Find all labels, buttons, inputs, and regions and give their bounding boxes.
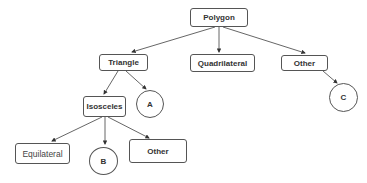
node-polygon: Polygon	[190, 8, 248, 27]
node-b-circle: B	[89, 147, 118, 175]
node-isosceles: Isosceles	[83, 96, 126, 117]
node-c-circle: C	[329, 83, 358, 112]
edge-polygon-triangle	[132, 27, 215, 52]
edge-polygon-other	[223, 27, 305, 53]
edge-triangle-a	[126, 71, 146, 89]
edge-isosceles-equilateral	[52, 117, 102, 141]
node-other-top: Other	[281, 55, 328, 71]
node-triangle: Triangle	[99, 54, 148, 71]
node-other-bottom: Other	[129, 139, 187, 163]
node-equilateral: Equilateral	[15, 143, 70, 164]
node-a-circle: A	[136, 90, 164, 118]
node-quadrilateral: Quadrilateral	[190, 54, 255, 72]
edge-other-c	[323, 71, 337, 83]
edge-isosceles-other	[108, 117, 149, 138]
edge-triangle-isosceles	[104, 71, 118, 94]
